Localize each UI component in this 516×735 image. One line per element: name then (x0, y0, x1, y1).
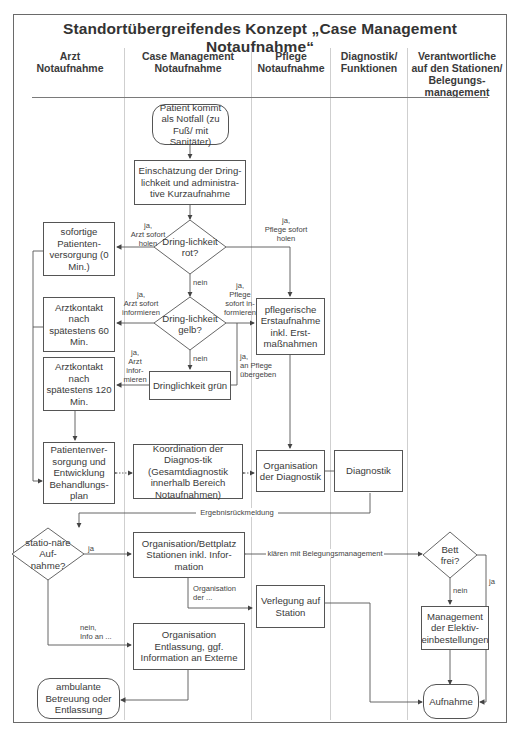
edge-label-gelb-pflege: ja, Pflege sofort in- formieren (222, 281, 258, 317)
edge-label-rot-arzt: ja, Arzt sofort holen (126, 221, 170, 248)
edge-label-gelb-arzt: ja, Arzt sofort informieren (118, 290, 164, 317)
arztkontakt-120-box: Arztkontakt nach spätestens 120 Min. (43, 357, 115, 411)
edge-label-gruen-arzt: ja, Arzt infor- mieren (118, 348, 152, 384)
entlassung-box: Organisation Entlassung, ggf. Informatio… (133, 623, 245, 670)
edge-label-organisation-der: Organisation der ... (193, 584, 236, 602)
verlegung-box: Verlegung auf Station (256, 585, 325, 628)
pflegerische-erstaufnahme-box: pflegerische Erstaufnahme inkl. Erst-maß… (256, 298, 325, 355)
decision-bett-frei-label: Bett frei? (432, 541, 468, 569)
behandlungsplan-box: Patientenver-sorgung und Entwicklung Beh… (43, 442, 115, 504)
decision-stationaer-label: statio-näre Auf-nahme? (22, 536, 74, 572)
bettplatz-box: Organisation/Bettplatz Stationen inkl. I… (133, 532, 245, 578)
diagnostik-box: Diagnostik (334, 450, 403, 492)
edge-label-bett-ja: ja (489, 577, 495, 586)
sofortige-versorgung-box: sofortige Patienten-versorgung (0 Min.) (43, 222, 115, 276)
decision-rot-label: Dring-lichkeit rot? (162, 228, 218, 266)
edge-label-bett-nein: nein (453, 586, 467, 595)
ambulant-node: ambulante Betreuung oder Entlassung (37, 678, 120, 719)
dringlichkeit-gruen-box: Dringlichkeit grün (149, 371, 231, 400)
edge-label-klaeren-belegungsmanagement: klären mit Belegungsmanagement (266, 549, 384, 558)
edge-label-rot-nein: nein (193, 278, 207, 287)
edge-label-rot-pflege: ja, Pflege sofort holen (258, 216, 314, 243)
edge-label-nein-info: nein, Info an ... (80, 623, 112, 641)
decision-gelb-label: Dring-lichkeit gelb? (162, 305, 218, 343)
arztkontakt-60-box: Arztkontakt nach spätestens 60 Min. (43, 297, 115, 352)
edge-label-gruen-pflege: ja, an Pflege übergeben (240, 352, 276, 379)
aufnahme-node: Aufnahme (423, 684, 479, 719)
start-node: Patient kommt als Notfall (zu Fuß/ mit S… (152, 104, 229, 145)
edge-label-ergebnisrueckmeldung: Ergebnisrückmeldung (196, 508, 278, 517)
edge-label-stationaer-ja: ja (88, 544, 94, 553)
organisation-diagnostik-box: Organisation der Diagnostik (256, 450, 325, 492)
elektiv-management-box: Management der Elektiv-einbestellungen (421, 606, 489, 650)
edge-label-gelb-nein: nein (193, 354, 207, 363)
einschaetzung-box: Einschätzung der Dring-lichkeit und admi… (134, 160, 246, 205)
koordination-diagnostik-box: Koordination der Diagnos-tik (Gesamtdiag… (133, 444, 243, 499)
